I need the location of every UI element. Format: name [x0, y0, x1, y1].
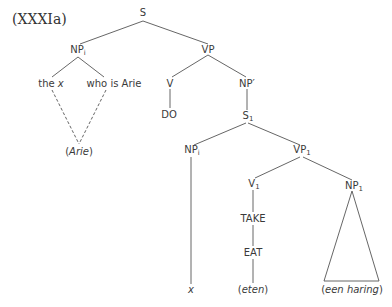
- node-subscript: 1: [359, 185, 363, 193]
- node-EAT: EAT: [243, 248, 264, 258]
- variable-x: x: [58, 78, 64, 89]
- node-subscript: i: [84, 49, 86, 57]
- node-label: NP: [184, 144, 198, 155]
- node-V: V: [167, 79, 174, 89]
- node-subscript: 1: [249, 115, 253, 123]
- word-arie: Arie: [69, 146, 89, 157]
- paren-close: ): [379, 284, 383, 295]
- leaf-arie: (Arie): [65, 147, 93, 157]
- word-the: the: [38, 78, 54, 89]
- node-VP: VP: [202, 45, 215, 55]
- node-NPi-top: NPi: [70, 45, 85, 57]
- node-V1: V1: [248, 179, 259, 191]
- node-VP1: VP1: [293, 145, 310, 157]
- node-label: NP: [70, 44, 84, 55]
- node-subscript: 1: [255, 183, 259, 191]
- node-S: S: [140, 8, 146, 18]
- leaf-x: x: [188, 285, 194, 295]
- leaf-who-is-arie: who is Arie: [87, 79, 142, 89]
- leaf-een-haring: (een haring): [321, 285, 383, 295]
- node-TAKE: TAKE: [239, 214, 266, 224]
- word-eten: eten: [242, 284, 265, 295]
- leaf-DO: DO: [161, 110, 177, 120]
- node-subscript: i: [198, 149, 200, 157]
- node-label: NP: [345, 180, 359, 191]
- node-label: V: [248, 178, 255, 189]
- node-NP1: NP1: [345, 181, 363, 193]
- node-label: VP: [293, 144, 306, 155]
- node-S1: S1: [243, 111, 254, 123]
- word-een-haring: een haring: [325, 284, 379, 295]
- node-NPi-low: NPi: [184, 145, 199, 157]
- paren-close: ): [89, 146, 93, 157]
- leaf-the-x: the x: [38, 79, 64, 89]
- leaf-eten: (eten): [238, 285, 268, 295]
- paren-close: ): [264, 284, 268, 295]
- node-subscript: 1: [306, 149, 310, 157]
- node-NP-prime: NP′: [239, 79, 255, 89]
